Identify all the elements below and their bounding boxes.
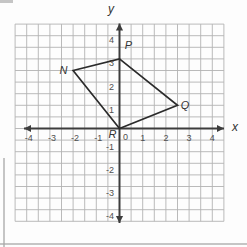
y-tick--4: -4 [106,211,114,221]
x-tick-1: 1 [140,133,145,143]
x-tick--2: -2 [71,133,79,143]
x-axis-arrow-right-icon [217,125,224,132]
x-tick-4: 4 [210,133,215,143]
vertex-label-R: R [109,128,117,140]
x-tick-2: 2 [163,133,168,143]
x-tick--3: -3 [48,133,56,143]
y-tick-2: 2 [109,82,114,92]
scan-edge-bottom [0,243,247,245]
vertex-label-N: N [60,64,68,76]
coordinate-plane: xy-4-3-2-1012344321-1-2-3-4NPQR [0,0,247,247]
x-tick-3: 3 [187,133,192,143]
y-tick--3: -3 [106,188,114,198]
scan-edge-left [3,158,5,247]
x-axis-arrow-left-icon [24,125,31,132]
x-tick--4: -4 [25,133,33,143]
y-axis-arrow-bottom-icon [116,216,123,223]
x-tick--1: -1 [94,133,102,143]
scan-edge-topleft [0,0,13,3]
y-tick--2: -2 [106,165,114,175]
y-tick--1: -1 [106,142,114,152]
vertex-label-P: P [125,39,133,51]
graph-figure: xy-4-3-2-1012344321-1-2-3-4NPQR [0,0,247,247]
x-tick-0: 0 [123,132,128,142]
y-tick-1: 1 [109,105,114,115]
x-axis-label: x [231,120,239,134]
y-tick-4: 4 [109,35,114,45]
y-axis-label: y [107,2,115,16]
vertex-label-Q: Q [181,99,190,111]
